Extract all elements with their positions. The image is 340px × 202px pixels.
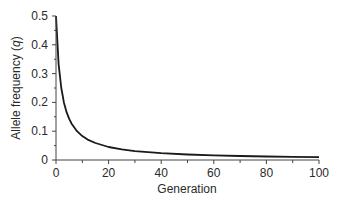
y-tick-label: 0.4 — [31, 38, 48, 52]
plot-area — [56, 16, 319, 157]
x-tick-label: 40 — [155, 166, 169, 180]
x-tick-label: 60 — [207, 166, 221, 180]
y-tick-label: 0.2 — [31, 95, 48, 109]
x-tick-label: 0 — [53, 166, 60, 180]
y-axis-label-prefix: Allele frequency ( — [9, 47, 23, 140]
allele-frequency-chart: 00.10.20.30.40.5 020406080100 Generation… — [0, 0, 340, 202]
y-tick-label: 0.3 — [31, 67, 48, 81]
x-tick-label: 100 — [309, 166, 329, 180]
x-axis: 020406080100 — [53, 160, 330, 180]
y-tick-label: 0.1 — [31, 124, 48, 138]
x-axis-label: Generation — [157, 182, 216, 196]
y-tick-label: 0.5 — [31, 9, 48, 23]
y-axis-label: Allele frequency (q) — [9, 36, 23, 139]
y-axis: 00.10.20.30.40.5 — [31, 9, 56, 167]
x-tick-label: 80 — [260, 166, 274, 180]
allele-frequency-curve — [56, 16, 319, 157]
y-axis-label-suffix: ) — [9, 36, 23, 40]
y-tick-label: 0 — [41, 153, 48, 167]
x-tick-label: 20 — [102, 166, 116, 180]
